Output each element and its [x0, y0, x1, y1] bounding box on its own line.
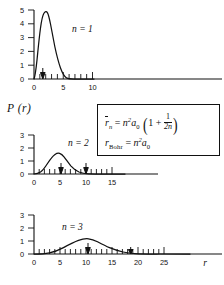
x-ticklabel: 25 [160, 258, 168, 267]
y-ticklabels-n3: 0 1 2 3 [20, 211, 24, 259]
plot-n-3-svg: 0 1 2 3 [0, 210, 224, 282]
y-ticklabel: 1 [20, 157, 24, 166]
y-ticklabel: 1 [20, 61, 24, 70]
curve-n2 [34, 153, 125, 174]
x-ticklabel: 10 [88, 83, 96, 92]
y-ticklabel: 0 [20, 250, 24, 259]
curve-label-n1: n = 1 [72, 24, 93, 34]
y-ticklabel: 2 [20, 144, 24, 153]
x-ticklabel: 5 [58, 178, 62, 187]
y-ticks-n3 [28, 215, 34, 254]
y-ticks-n1 [28, 10, 34, 79]
formula-one: 1 [148, 117, 153, 128]
formula-a-subscript: 0 [136, 123, 139, 130]
x-ticklabels-n3: 0 5 10 15 20 25 [32, 258, 168, 267]
y-ticklabel: 1 [20, 237, 24, 246]
probability-density-figure: 0 1 2 3 4 5 0 [0, 0, 224, 285]
y-ticklabel: 3 [20, 131, 24, 140]
bohr-radius-marker-n2 [84, 163, 89, 174]
formula-fraction-denominator: 2n [164, 123, 172, 132]
y-ticklabel: 5 [20, 6, 24, 15]
y-ticklabel: 2 [20, 47, 24, 56]
x-ticklabel: 15 [108, 258, 116, 267]
x-ticklabel: 5 [58, 258, 62, 267]
x-ticklabel: 5 [61, 83, 65, 92]
x-ticklabel: 15 [108, 178, 116, 187]
plot-n-3: 0 1 2 3 [0, 210, 224, 282]
mean-radius-marker-n1 [41, 68, 46, 79]
x-ticklabels-n2: 0 5 10 15 [32, 178, 116, 187]
x-ticklabel: 10 [82, 178, 90, 187]
curve-label-n3: n = 3 [62, 222, 83, 232]
y-ticks-n2 [28, 135, 34, 174]
curve-label-n2: n = 2 [68, 138, 89, 148]
y-ticklabel: 4 [20, 19, 24, 28]
formula-plus: + [156, 117, 162, 128]
plot-n-2-svg: 0 1 2 3 [0, 130, 160, 192]
y-ticklabel: 0 [20, 170, 24, 179]
x-ticklabel: 0 [32, 178, 36, 187]
x-axis-label-r: r [203, 258, 207, 268]
formula-rbar-subscript: n [109, 123, 112, 130]
formula-paren-close: ) [173, 115, 178, 134]
formula-rbar-symbol: r [105, 118, 109, 128]
y-ticklabel: 3 [20, 33, 24, 42]
x-ticklabel: 20 [134, 258, 142, 267]
formula-equals: = [115, 117, 121, 128]
plot-n-2: 0 1 2 3 [0, 130, 160, 192]
y-ticklabel: 0 [20, 75, 24, 84]
y-ticklabel: 3 [20, 211, 24, 220]
plot-n-1-svg: 0 1 2 3 4 5 0 [0, 2, 224, 94]
y-ticklabels-n1: 0 1 2 3 4 5 [20, 6, 24, 84]
ordinate-label-pr: P (r) [7, 102, 31, 114]
y-ticklabel: 2 [20, 224, 24, 233]
x-ticklabel: 0 [32, 258, 36, 267]
plot-n-1: 0 1 2 3 4 5 0 [0, 2, 224, 94]
formula-fraction: 12n [164, 113, 172, 132]
mean-radius-marker-n2 [59, 163, 64, 174]
y-ticklabels-n2: 0 1 2 3 [20, 131, 24, 179]
x-ticklabel: 10 [82, 258, 90, 267]
x-ticklabels-n1: 0 5 10 [32, 83, 97, 92]
x-ticklabel: 0 [32, 83, 36, 92]
